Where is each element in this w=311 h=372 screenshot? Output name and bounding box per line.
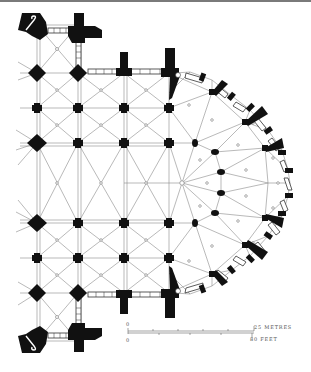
floor-plan [0, 0, 311, 372]
south-west-tower [18, 326, 48, 353]
north-west-tower [18, 13, 48, 40]
scale-zero-metres: 0 [126, 321, 130, 327]
scale-bar [128, 326, 254, 338]
scale-metres-label: 25 METRES [254, 324, 292, 330]
stair-turret-south [176, 289, 181, 294]
scale-feet-label: 80 FEET [250, 336, 278, 342]
spiral-stairs [26, 16, 36, 350]
scale-zero-feet: 0 [126, 337, 130, 343]
stair-turret-north [176, 73, 181, 78]
